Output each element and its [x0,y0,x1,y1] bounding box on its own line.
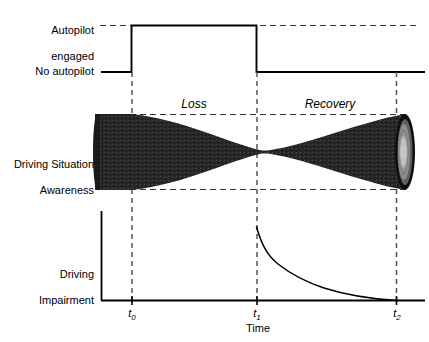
driving-situation-awareness-label: Driving Situation Awareness [0,145,94,210]
phase-label-recovery: Recovery [285,98,375,111]
x-tick-label-t0-sub: 0 [131,313,135,322]
phase-label-loss: Loss [155,98,233,111]
autopilot-step-signal [101,26,425,73]
awareness-left-cylinder [93,114,133,190]
x-tick-label-t1-sub: 1 [256,313,260,322]
driving-situation-awareness-label-line2: Awareness [40,184,94,196]
no-autopilot-label: No autopilot [0,65,94,78]
x-tick-label-t0: t0 [120,307,144,324]
figure-root: Autopilot engaged No autopilot Loss Reco… [0,0,429,342]
autopilot-engaged-label-line1: Autopilot [51,24,94,36]
driving-impairment-label-line2: Impairment [39,294,94,306]
x-tick-label-t2: t2 [385,307,409,324]
driving-impairment-label-line1: Driving [60,268,94,280]
driving-impairment-label: Driving Impairment [0,255,94,320]
driving-situation-awareness-label-line1: Driving Situation [14,158,94,170]
x-axis-title: Time [228,322,288,335]
autopilot-engaged-label-line2: engaged [51,50,94,62]
awareness-right-end-cap [395,114,415,190]
x-tick-label-t2-sub: 2 [396,313,400,322]
impairment-decay-curve [257,227,398,301]
awareness-funnel-body [96,114,405,190]
